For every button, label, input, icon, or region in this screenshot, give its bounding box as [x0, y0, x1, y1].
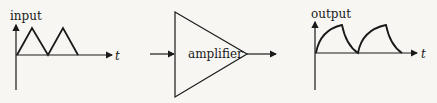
output-graph: output t	[311, 7, 426, 90]
amplifier-diagram: input t amplifier output t	[0, 0, 437, 103]
amplifier-block: amplifier	[150, 12, 276, 97]
input-triangle-wave	[17, 28, 78, 55]
input-graph: input t	[10, 9, 120, 90]
input-y-label: input	[10, 9, 42, 23]
input-x-label: t	[115, 49, 120, 63]
output-x-label: t	[421, 47, 426, 61]
output-wave	[316, 25, 402, 53]
amplifier-label: amplifier	[188, 47, 243, 61]
output-y-label: output	[311, 7, 351, 21]
